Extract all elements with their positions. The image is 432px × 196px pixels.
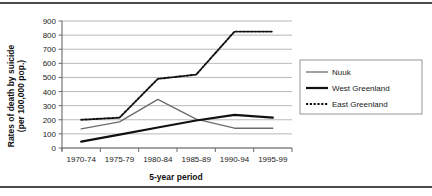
legend-label: Nuuk <box>332 68 352 77</box>
y-axis-title-line2: (per 100,000 pop.) <box>16 60 26 132</box>
chart-figure: 0100200300400500600700800900 1970-741975… <box>0 0 432 196</box>
x-tick-label: 1995-99 <box>258 155 288 164</box>
data-series-group <box>81 32 273 142</box>
x-tick-labels-group: 1970-741975-791980-841985-891990-941995-… <box>66 155 288 164</box>
y-tick-labels-group: 0100200300400500600700800900 <box>43 17 57 153</box>
legend-label: East Greenland <box>332 100 388 109</box>
chart-legend: NuukWest GreenlandEast Greenland <box>300 60 422 114</box>
gridlines-group <box>62 21 292 148</box>
y-tick-label: 200 <box>43 116 57 125</box>
line-chart: 0100200300400500600700800900 1970-741975… <box>0 8 432 184</box>
y-tick-label: 400 <box>43 88 57 97</box>
x-tick-label: 1970-74 <box>66 155 96 164</box>
x-tick-label: 1990-94 <box>220 155 250 164</box>
y-tick-label: 500 <box>43 73 57 82</box>
x-tick-label: 1975-79 <box>105 155 135 164</box>
x-tick-label: 1980-84 <box>143 155 173 164</box>
series-line-east-greenland <box>81 32 273 120</box>
axis-lines-group <box>59 21 293 152</box>
x-tick-label: 1985-89 <box>181 155 211 164</box>
y-tick-label: 800 <box>43 31 57 40</box>
x-axis-title: 5-year period <box>149 172 202 182</box>
y-tick-label: 0 <box>52 144 57 153</box>
y-tick-label: 900 <box>43 17 57 26</box>
y-tick-label: 100 <box>43 130 57 139</box>
bottom-divider-rule <box>0 186 432 188</box>
y-tick-label: 700 <box>43 45 57 54</box>
y-tick-label: 300 <box>43 102 57 111</box>
top-divider-rule <box>0 2 432 4</box>
legend-label: West Greenland <box>332 84 390 93</box>
y-axis-title-line1: Rates of death by suicide <box>6 44 16 147</box>
y-tick-label: 600 <box>43 59 57 68</box>
